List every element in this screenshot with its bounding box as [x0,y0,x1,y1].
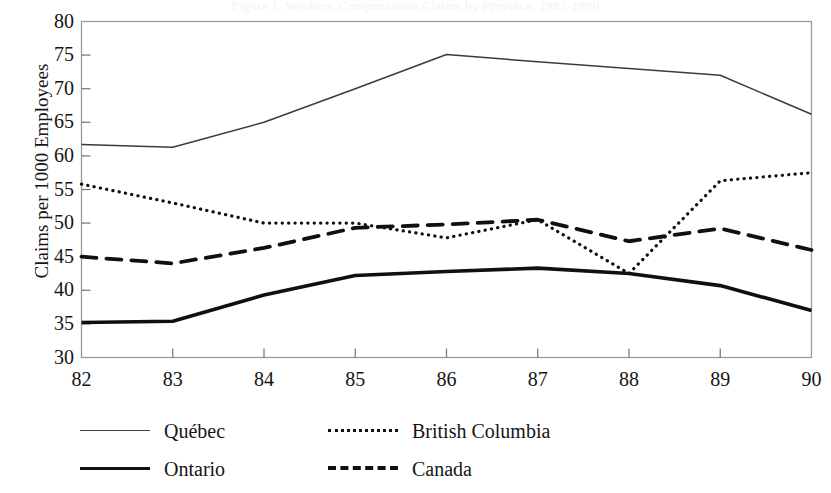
series-line [82,220,812,264]
legend-line-stroke [80,467,150,470]
series-line [82,54,812,147]
legend-line-stroke [328,466,398,470]
plot-area [0,0,831,400]
series-lines [82,54,812,322]
legend-line-stroke [80,430,150,431]
legend-label: Canada [412,458,472,481]
legend-entry[interactable]: Canada [328,454,472,484]
series-line [82,173,812,274]
legend-label: British Columbia [412,420,550,443]
legend-entry[interactable]: British Columbia [328,416,550,446]
legend-line-sample-icon [328,424,398,438]
chart-legend: QuébecOntarioBritish ColumbiaCanada [80,416,600,488]
legend-line-sample-icon [80,462,150,476]
legend-label: Ontario [164,458,225,481]
axis-ticks [82,55,721,357]
chart-figure: Figure 1. Workers' Compensation Claims b… [0,0,831,493]
legend-entry[interactable]: Québec [80,416,225,446]
series-line [82,268,812,322]
legend-line-sample-icon [80,424,150,438]
legend-line-stroke [328,429,398,432]
plot-frame [82,22,812,358]
legend-line-sample-icon [328,462,398,476]
legend-label: Québec [164,420,225,443]
legend-entry[interactable]: Ontario [80,454,225,484]
